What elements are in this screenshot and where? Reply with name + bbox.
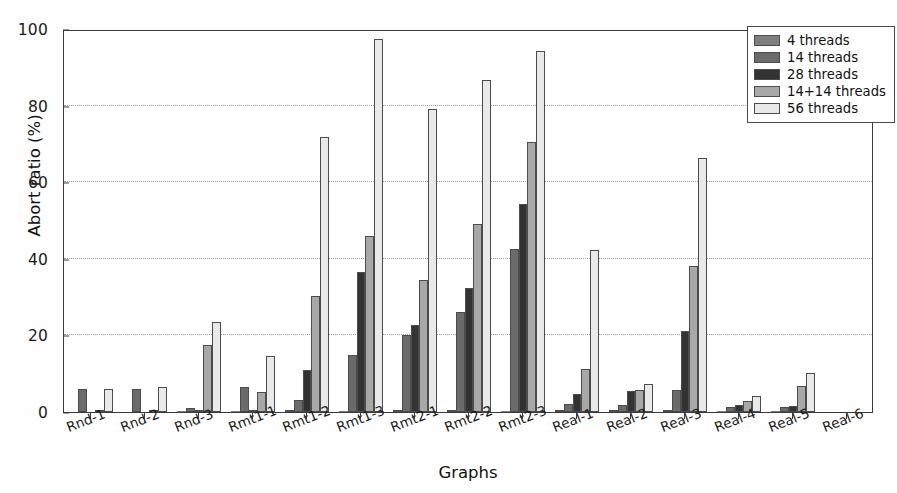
legend-label: 14+14 threads	[787, 84, 886, 99]
y-tickmark-0	[63, 413, 69, 414]
x-tickmark-Real-2	[630, 413, 631, 419]
bar-Rnd-2-56-threads	[158, 387, 167, 412]
bar-Real-5-56-threads	[806, 373, 815, 412]
y-tick-20: 20	[28, 327, 48, 345]
x-tickmark-Rmt1-2	[306, 413, 307, 419]
legend-label: 4 threads	[787, 33, 850, 48]
legend-swatch-icon-1	[754, 52, 780, 63]
abort-ratio-bar-chart: Abort ratio (%) 020406080100 Rnd-1Rnd-2R…	[0, 0, 897, 493]
bar-Rmt2-3-56-threads	[536, 51, 545, 412]
x-tickmark-Rnd-2	[144, 413, 145, 419]
bar-Rmt2-1-28-threads	[411, 325, 420, 412]
bar-Rmt1-1-4-threads	[231, 411, 240, 412]
x-tickmark-Rmt2-2	[468, 413, 469, 419]
y-tick-0: 0	[38, 404, 48, 422]
bar-Rmt2-1-56-threads	[428, 109, 437, 412]
legend-swatch-icon-0	[754, 35, 780, 46]
bar-Real-3-4-threads	[663, 410, 672, 412]
bar-Rmt1-2-14-14-threads	[311, 296, 320, 412]
bar-Rmt1-3-4-threads	[339, 411, 348, 412]
bar-Rmt1-2-4-threads	[285, 410, 294, 412]
bar-Real-4-4-threads	[717, 411, 726, 412]
bar-Rnd-3-4-threads	[177, 411, 186, 412]
y-axis-tick-labels: 020406080100	[0, 30, 58, 413]
bar-Rmt2-3-14-14-threads	[527, 142, 536, 412]
bar-Real-3-14-14-threads	[689, 266, 698, 412]
y-tick-40: 40	[28, 251, 48, 269]
x-tickmark-Real-3	[684, 413, 685, 419]
legend-item-56-threads: 56 threads	[754, 100, 886, 117]
y-tickmark-80	[63, 106, 69, 107]
bar-Rmt1-2-14-threads	[294, 400, 303, 412]
legend-swatch-icon-4	[754, 103, 780, 114]
x-tickmark-Rmt2-1	[414, 413, 415, 419]
bar-Rnd-1-14-threads	[78, 389, 87, 412]
x-tickmark-Rmt2-3	[522, 413, 523, 419]
bar-Rmt1-2-28-threads	[303, 370, 312, 412]
y-tick-100: 100	[18, 21, 48, 39]
legend-item-4-threads: 4 threads	[754, 32, 886, 49]
legend-item-14-threads: 14 threads	[754, 49, 886, 66]
bar-Rmt2-1-14-14-threads	[419, 280, 428, 412]
legend-label: 14 threads	[787, 50, 858, 65]
legend-swatch-icon-3	[754, 86, 780, 97]
bar-Real-1-56-threads	[590, 250, 599, 412]
y-tickmark-40	[63, 259, 69, 260]
legend-item-14-14-threads: 14+14 threads	[754, 83, 886, 100]
bar-Rnd-2-14-threads	[132, 389, 141, 412]
y-tick-60: 60	[28, 174, 48, 192]
bar-Rmt1-2-56-threads	[320, 137, 329, 412]
bar-Rmt2-2-14-threads	[456, 312, 465, 412]
legend-label: 56 threads	[787, 101, 858, 116]
legend-label: 28 threads	[787, 67, 858, 82]
bar-Real-3-56-threads	[698, 158, 707, 412]
x-tickmark-Rnd-1	[90, 413, 91, 419]
bar-Real-2-4-threads	[609, 410, 618, 412]
bar-Real-3-14-threads	[672, 390, 681, 412]
x-tickmark-Real-4	[738, 413, 739, 419]
x-tickmark-Real-1	[576, 413, 577, 419]
bar-Rmt2-2-14-14-threads	[473, 224, 482, 412]
y-tickmark-60	[63, 183, 69, 184]
bar-Real-5-4-threads	[771, 411, 780, 412]
bar-Rmt2-2-4-threads	[447, 410, 456, 412]
y-tickmark-100	[63, 30, 69, 31]
x-tickmark-Rmt1-1	[252, 413, 253, 419]
bar-Rmt2-2-56-threads	[482, 80, 491, 412]
bar-Rmt2-3-14-threads	[510, 249, 519, 412]
bar-Rmt1-1-14-threads	[240, 387, 249, 412]
y-tickmark-20	[63, 336, 69, 337]
bar-Rmt1-3-14-threads	[348, 355, 357, 412]
bar-Rmt1-3-14-14-threads	[365, 236, 374, 412]
bar-Rnd-3-56-threads	[212, 322, 221, 412]
bar-Real-3-28-threads	[681, 331, 690, 412]
bar-Rmt2-3-28-threads	[519, 204, 528, 412]
y-tick-80: 80	[28, 98, 48, 116]
bar-Rmt2-1-14-threads	[402, 335, 411, 412]
x-tickmark-Rmt1-3	[360, 413, 361, 419]
bar-Rmt2-2-28-threads	[465, 288, 474, 412]
x-tickmark-Real-6	[846, 413, 847, 419]
x-axis-title: Graphs	[63, 463, 873, 482]
x-tickmark-Rnd-3	[198, 413, 199, 419]
bar-Rnd-1-56-threads	[104, 389, 113, 412]
bar-Rmt2-1-4-threads	[393, 410, 402, 412]
x-tickmark-Real-5	[792, 413, 793, 419]
bar-Rmt1-3-28-threads	[357, 272, 366, 412]
bar-Rmt1-3-56-threads	[374, 39, 383, 412]
bar-Rnd-3-14-14-threads	[203, 345, 212, 412]
legend-item-28-threads: 28 threads	[754, 66, 886, 83]
bar-Rmt2-3-4-threads	[501, 411, 510, 412]
legend-swatch-icon-2	[754, 69, 780, 80]
legend: 4 threads14 threads28 threads14+14 threa…	[747, 26, 895, 123]
bar-Real-1-4-threads	[555, 410, 564, 412]
